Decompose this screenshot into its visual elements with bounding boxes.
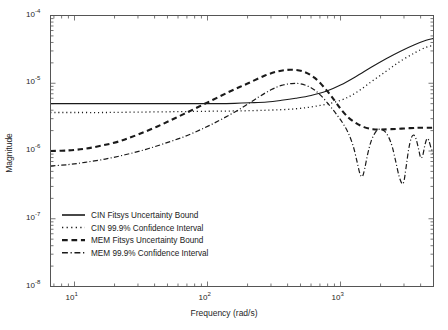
plot-area: CIN Fitsys Uncertainty BoundCIN 99.9% Co… xyxy=(0,0,448,330)
y-tick-label-1: 10-5 xyxy=(26,77,40,86)
series-line-1 xyxy=(51,46,434,113)
y-axis-label: Magnitude xyxy=(4,118,14,188)
magnitude-frequency-chart: CIN Fitsys Uncertainty BoundCIN 99.9% Co… xyxy=(0,0,448,330)
legend-label-1: CIN 99.9% Confidence Interval xyxy=(91,224,204,233)
legend-label-2: MEM Fitsys Uncertainty Bound xyxy=(91,236,204,245)
x-axis-label: Frequency (rad/s) xyxy=(0,308,448,318)
x-tick-label-0: 101 xyxy=(66,293,78,302)
data-series-group xyxy=(51,38,434,184)
chart-legend: CIN Fitsys Uncertainty BoundCIN 99.9% Co… xyxy=(62,211,209,258)
y-tick-label-4: 10-8 xyxy=(26,281,40,290)
series-line-3 xyxy=(51,83,434,184)
legend-label-0: CIN Fitsys Uncertainty Bound xyxy=(91,211,199,220)
y-tick-label-2: 10-6 xyxy=(26,145,40,154)
plot-frame xyxy=(51,16,434,287)
series-line-2 xyxy=(51,70,434,151)
x-tick-label-2: 103 xyxy=(332,293,344,302)
x-tick-label-1: 102 xyxy=(199,293,211,302)
axis-ticks xyxy=(51,16,434,287)
y-tick-label-0: 10-4 xyxy=(26,10,40,19)
legend-label-3: MEM 99.9% Confidence Interval xyxy=(91,249,209,258)
series-line-0 xyxy=(51,38,434,103)
y-tick-label-3: 10-7 xyxy=(26,213,40,222)
